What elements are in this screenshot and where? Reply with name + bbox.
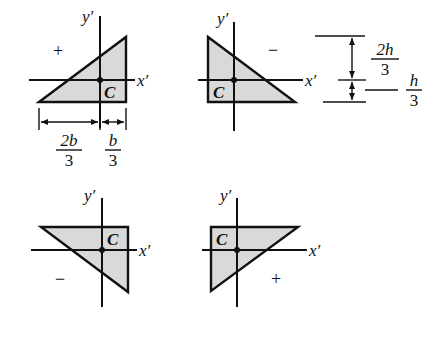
dim-2b-den: 3 bbox=[65, 151, 74, 170]
dim-h-den: 3 bbox=[410, 91, 419, 110]
dim-2h-num: 2h bbox=[377, 40, 394, 59]
x-axis-label: x′ bbox=[304, 71, 317, 90]
dim-2b-num: 2b bbox=[61, 131, 78, 150]
centroid-dot bbox=[234, 247, 240, 253]
sign-label: + bbox=[53, 41, 63, 61]
centroid-diagram: y′ x′ C + 2b 3 b 3 y′ x′ C − 2h bbox=[0, 0, 423, 338]
centroid-label: C bbox=[107, 230, 119, 249]
y-axis-label: y′ bbox=[80, 7, 94, 26]
dim-h-num: h bbox=[410, 71, 419, 90]
centroid-dot bbox=[231, 77, 237, 83]
x-axis-label: x′ bbox=[308, 241, 321, 260]
height-dimensions: 2h 3 h 3 bbox=[315, 36, 422, 110]
dim-b-num: b bbox=[109, 131, 118, 150]
sign-label: − bbox=[268, 40, 278, 60]
centroid-label: C bbox=[213, 83, 225, 102]
panel-bottom-right: y′ x′ C + bbox=[202, 186, 321, 307]
dim-2h-den: 3 bbox=[381, 60, 390, 79]
x-axis-label: x′ bbox=[136, 71, 149, 90]
panel-top-right: y′ x′ C − bbox=[198, 9, 317, 131]
centroid-label: C bbox=[104, 83, 116, 102]
sign-label: − bbox=[55, 269, 65, 289]
y-axis-label: y′ bbox=[215, 9, 229, 28]
panel-top-left: y′ x′ C + 2b 3 b 3 bbox=[29, 7, 149, 170]
centroid-label: C bbox=[216, 230, 228, 249]
y-axis-label: y′ bbox=[82, 186, 96, 205]
centroid-dot bbox=[99, 247, 105, 253]
x-axis-label: x′ bbox=[138, 241, 151, 260]
panel-bottom-left: y′ x′ C − bbox=[31, 186, 151, 307]
y-axis-label: y′ bbox=[218, 186, 232, 205]
centroid-dot bbox=[97, 77, 103, 83]
sign-label: + bbox=[271, 269, 281, 289]
dim-b-den: 3 bbox=[109, 151, 118, 170]
